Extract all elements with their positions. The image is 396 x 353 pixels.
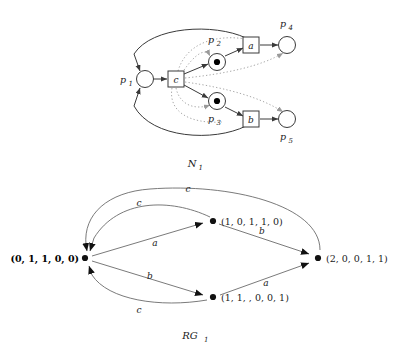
rg-caption: RG xyxy=(181,330,198,341)
figure-canvas: c a b p 1 p 2 p 3 p 4 p 5 N 1 xyxy=(0,0,396,353)
transition-label-c: c xyxy=(173,75,178,85)
dotted-arc-group xyxy=(172,38,283,122)
arc-b-to-p1 xyxy=(134,88,246,135)
place-label-p4-sub: 4 xyxy=(288,24,293,32)
petri-net-caption-sub: 1 xyxy=(199,164,203,172)
rg-node-m3[interactable] xyxy=(315,255,321,261)
dotted-arc-c-to-p3 xyxy=(176,88,210,107)
place-p1[interactable] xyxy=(137,71,154,88)
place-label-p5: p xyxy=(280,131,286,142)
rg-edge-label-a-m2-m3: a xyxy=(263,278,268,288)
rg-edge-label-b-m1-m3: b xyxy=(259,226,265,236)
petri-net-caption: N xyxy=(187,158,198,169)
rg-edge-label-c-m2-m0: c xyxy=(136,305,141,315)
arc-c-to-p3 xyxy=(184,85,208,98)
rg-node-label-m3: (2, 0, 0, 1, 1) xyxy=(326,253,388,264)
place-label-p3-sub: 3 xyxy=(217,119,222,127)
place-label-p1: p xyxy=(120,74,126,85)
place-label-p5-sub: 5 xyxy=(289,137,294,145)
rg-edge-m0-m1 xyxy=(92,223,203,256)
rg-edge-label-c-m3-m0: c xyxy=(185,184,190,194)
rg-nodes-group xyxy=(82,218,321,300)
transition-label-a: a xyxy=(248,41,253,51)
reachability-graph-group: (0, 1, 1, 0, 0) (1, 0, 1, 1, 0) (1, 1, ,… xyxy=(11,184,388,344)
petri-net-group: c a b p 1 p 2 p 3 p 4 p 5 N 1 xyxy=(120,18,296,172)
arc-a-to-p1 xyxy=(134,29,246,71)
arc-c-to-p2 xyxy=(184,64,208,74)
token-p3 xyxy=(214,98,220,104)
rg-node-m2[interactable] xyxy=(210,294,216,300)
place-label-p4: p xyxy=(280,18,286,29)
dotted-arc-c-to-p5 xyxy=(185,82,283,112)
arc-p3-to-b xyxy=(225,107,243,116)
place-p4[interactable] xyxy=(279,37,296,54)
rg-edge-m3-m0 xyxy=(86,188,320,251)
rg-caption-sub: 1 xyxy=(204,336,208,344)
rg-edge-m1-m0 xyxy=(90,205,210,251)
rg-edge-label-b-m0-m2: b xyxy=(147,271,153,281)
place-label-p3: p xyxy=(208,113,214,124)
rg-node-m0[interactable] xyxy=(82,255,88,261)
places-group xyxy=(137,37,296,128)
place-label-p2-sub: 2 xyxy=(216,40,222,48)
figure-root: c a b p 1 p 2 p 3 p 4 p 5 N 1 xyxy=(0,0,396,353)
place-label-p2: p xyxy=(208,34,214,45)
rg-node-label-m2: (1, 1, , 0, 0, 1) xyxy=(221,292,289,303)
rg-node-m1[interactable] xyxy=(210,218,216,224)
transition-label-b: b xyxy=(248,115,254,125)
place-label-p1-sub: 1 xyxy=(129,80,133,88)
rg-node-label-m1: (1, 0, 1, 1, 0) xyxy=(221,216,283,227)
token-p2 xyxy=(214,59,220,65)
rg-edge-label-a-m0-m1: a xyxy=(152,238,157,248)
arc-p2-to-a xyxy=(225,48,243,56)
place-p5[interactable] xyxy=(279,111,296,128)
dotted-arc-c-to-p4 xyxy=(185,53,283,78)
rg-edge-label-c-m1-m0: c xyxy=(136,198,141,208)
rg-node-label-m0: (0, 1, 1, 0, 0) xyxy=(11,253,80,265)
